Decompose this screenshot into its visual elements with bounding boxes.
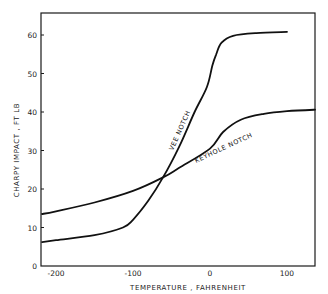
x-tick-label: -100 (124, 269, 141, 278)
y-tick-label: 0 (32, 262, 37, 271)
x-axis-label: TEMPERATURE , FAHRENHEIT (129, 284, 246, 292)
charpy-impact-chart: 0102030405060 -200-1000100 VEE NOTCH KEY… (0, 0, 328, 294)
keyhole-notch-label: KEYHOLE NOTCH (193, 131, 253, 165)
y-tick-label: 10 (27, 224, 37, 233)
y-tick-label: 30 (27, 147, 37, 156)
x-axis-ticks: -200-1000100 (47, 269, 294, 278)
y-tick-label: 60 (27, 31, 37, 40)
x-tick-label: 0 (208, 269, 213, 278)
x-tick-label: -200 (47, 269, 64, 278)
y-tick-label: 50 (27, 70, 37, 79)
y-tick-label: 40 (27, 108, 37, 117)
y-axis-label: CHARPY IMPACT , FT LB (13, 103, 21, 197)
x-tick-label: 100 (280, 269, 295, 278)
y-tick-label: 20 (27, 185, 37, 194)
